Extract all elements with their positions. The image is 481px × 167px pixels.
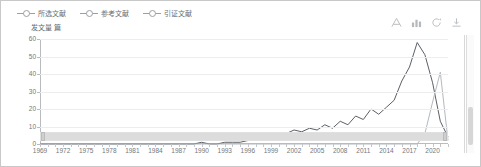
range-slider-handle-right[interactable]	[443, 132, 447, 141]
y-axis-title: 发文量 篇	[31, 22, 61, 32]
x-tick-label: 2020	[425, 148, 439, 155]
x-tick-mark	[279, 144, 280, 147]
y-tick-mark	[37, 127, 40, 128]
chart-widget: 所选文献 参考文献 引证文献 发文量 篇 01020304050601969	[0, 0, 481, 167]
grid-line	[40, 39, 448, 40]
x-tick-mark	[348, 144, 349, 147]
grid-line	[40, 127, 448, 128]
x-tick-label: 2014	[379, 148, 393, 155]
y-tick-label: 10	[29, 123, 36, 130]
grid-line	[40, 74, 448, 75]
x-tick-mark	[256, 144, 257, 147]
x-tick-mark	[186, 144, 187, 147]
x-tick-mark	[440, 144, 441, 147]
download-icon[interactable]	[451, 17, 462, 28]
x-tick-mark	[394, 144, 395, 147]
x-tick-mark	[371, 144, 372, 147]
vertical-scrollbar-thumb[interactable]	[468, 107, 473, 145]
y-tick-mark	[37, 74, 40, 75]
y-tick-mark	[37, 109, 40, 110]
legend-label: 参考文献	[101, 9, 129, 18]
range-slider-handle-left[interactable]	[41, 132, 45, 141]
refresh-icon[interactable]	[431, 17, 442, 28]
x-tick-mark	[48, 144, 49, 147]
y-tick-mark	[37, 57, 40, 58]
line-marker-icon	[143, 9, 161, 18]
y-tick-mark	[37, 92, 40, 93]
x-tick-mark	[117, 144, 118, 147]
x-tick-mark	[140, 144, 141, 147]
x-tick-label: 1987	[171, 148, 185, 155]
x-tick-mark	[209, 144, 210, 147]
y-tick-label: 50	[29, 53, 36, 60]
legend-item-references[interactable]: 参考文献	[80, 9, 129, 18]
legend-label: 引证文献	[164, 9, 192, 18]
data-view-icon[interactable]	[391, 17, 402, 28]
y-tick-label: 40	[29, 71, 36, 78]
x-tick-label: 1978	[102, 148, 116, 155]
y-tick-label: 30	[29, 88, 36, 95]
legend-item-citations[interactable]: 引证文献	[143, 9, 192, 18]
vertical-scrollbar[interactable]	[466, 35, 474, 153]
x-tick-label: 1969	[33, 148, 47, 155]
x-tick-label: 1981	[125, 148, 139, 155]
x-tick-label: 2005	[310, 148, 324, 155]
x-tick-mark	[163, 144, 164, 147]
chart-legend: 所选文献 参考文献 引证文献	[17, 6, 192, 20]
x-tick-mark	[417, 144, 418, 147]
line-marker-icon	[80, 9, 98, 18]
range-slider[interactable]	[40, 132, 448, 141]
x-tick-mark	[302, 144, 303, 147]
y-tick-label: 60	[29, 36, 36, 43]
range-slider-fill	[41, 133, 447, 140]
x-tick-label: 2008	[333, 148, 347, 155]
y-tick-label: 20	[29, 106, 36, 113]
x-tick-label: 1975	[79, 148, 93, 155]
x-tick-mark	[94, 144, 95, 147]
x-tick-label: 1996	[241, 148, 255, 155]
x-tick-mark	[325, 144, 326, 147]
plot-area: 0102030405060196919721975197819811984198…	[40, 39, 448, 144]
x-tick-label: 1993	[218, 148, 232, 155]
x-tick-label: 1990	[194, 148, 208, 155]
legend-label: 所选文献	[38, 9, 66, 18]
x-tick-label: 1999	[264, 148, 278, 155]
bar-chart-icon[interactable]	[411, 17, 422, 28]
x-tick-label: 2002	[287, 148, 301, 155]
x-tick-label: 2011	[356, 148, 370, 155]
line-marker-icon	[17, 9, 35, 18]
grid-line	[40, 57, 448, 58]
series-line	[40, 43, 448, 145]
chart-toolbar	[391, 17, 462, 28]
legend-item-selected-literature[interactable]: 所选文献	[17, 9, 66, 18]
panel-divider	[464, 35, 465, 153]
grid-line	[40, 109, 448, 110]
x-tick-mark	[448, 144, 449, 147]
x-tick-mark	[71, 144, 72, 147]
y-tick-mark	[37, 39, 40, 40]
x-tick-label: 1972	[56, 148, 70, 155]
x-tick-label: 1984	[148, 148, 162, 155]
x-tick-label: 2017	[402, 148, 416, 155]
x-tick-mark	[232, 144, 233, 147]
grid-line	[40, 92, 448, 93]
